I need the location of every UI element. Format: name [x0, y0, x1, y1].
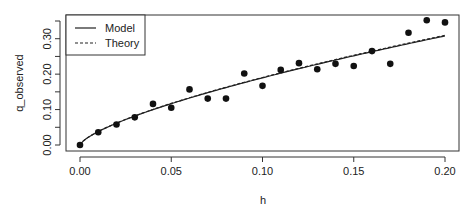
- legend-theory-label: Theory: [105, 37, 140, 49]
- x-axis-label: h: [260, 194, 266, 206]
- y-tick-label: 0.20: [41, 63, 53, 84]
- data-point: [95, 129, 102, 136]
- data-point: [77, 142, 84, 149]
- legend: Model Theory: [66, 15, 145, 55]
- y-tick-label: 0.30: [41, 28, 53, 49]
- y-tick-label: 0.00: [41, 134, 53, 155]
- x-tick-label: 0.05: [161, 165, 182, 177]
- data-point: [241, 70, 248, 77]
- y-axis: 0.000.100.200.30: [41, 21, 60, 156]
- data-point: [150, 101, 157, 108]
- data-point: [168, 105, 175, 112]
- data-point: [204, 95, 211, 102]
- data-point: [259, 83, 266, 90]
- x-tick-label: 0.15: [343, 165, 364, 177]
- data-point: [113, 121, 120, 128]
- data-point: [442, 19, 449, 26]
- data-point: [387, 61, 394, 68]
- x-tick-label: 0.10: [252, 165, 273, 177]
- x-axis: 0.000.050.100.150.20: [69, 157, 455, 177]
- data-point: [350, 63, 357, 70]
- y-axis-label: q_observed: [13, 54, 25, 112]
- x-tick-label: 0.00: [69, 165, 90, 177]
- data-point: [423, 17, 430, 24]
- data-point: [277, 67, 284, 74]
- data-point: [186, 86, 193, 93]
- y-tick-label: 0.10: [41, 99, 53, 120]
- data-point: [131, 114, 138, 121]
- chart: 0.000.100.200.30 0.000.050.100.150.20 q_…: [0, 0, 473, 214]
- data-point: [314, 66, 321, 73]
- x-tick-label: 0.20: [434, 165, 455, 177]
- data-point: [223, 95, 230, 102]
- data-point: [332, 61, 339, 68]
- legend-box: [66, 15, 145, 55]
- data-point: [296, 60, 303, 67]
- legend-model-label: Model: [105, 22, 135, 34]
- data-point: [405, 29, 412, 36]
- data-point: [369, 48, 376, 55]
